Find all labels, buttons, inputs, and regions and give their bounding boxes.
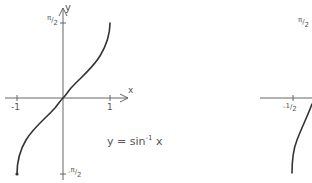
arcsin-graph [5, 8, 128, 180]
pi-half-denominator: 2 [54, 19, 58, 27]
x-tick-label-pos1: 1 [107, 103, 113, 112]
x-tick-label-neg-half: -1/2 [283, 104, 297, 111]
y-tick-label-neg-pi-half: -π/2 [68, 169, 82, 176]
y-tick-label-pi-half: π/2 [47, 17, 58, 24]
neg-pi-half-denominator: 2 [77, 171, 81, 179]
x-axis-label: x [128, 86, 133, 95]
equation-label: y = sin-1 x [107, 135, 162, 147]
partial-curve [292, 104, 312, 173]
curve-endpoint-dot [15, 172, 18, 175]
right-y-tick-label-pi-half: π/2 [298, 19, 309, 26]
pi-half-numerator: π [47, 14, 51, 22]
graphs-canvas [0, 0, 312, 183]
neg-pi-half-numerator: π [71, 166, 75, 174]
y-axis-label: y [65, 3, 71, 13]
x-tick-label-neg1: -1 [11, 103, 20, 112]
